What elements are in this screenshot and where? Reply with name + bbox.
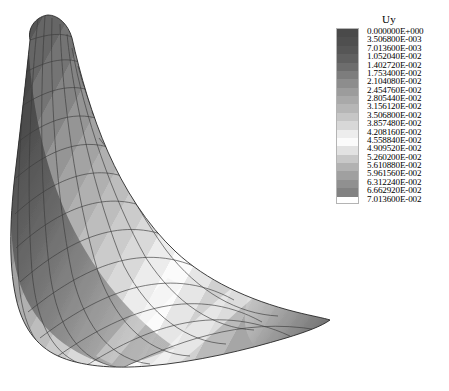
colorbar-band xyxy=(337,63,358,71)
colorbar-band xyxy=(337,138,358,146)
colorbar-band xyxy=(337,155,358,163)
contour-legend: Uy 0.000000E+0003.506800E-0037.013600E-0… xyxy=(336,14,449,199)
legend-colorbar xyxy=(336,28,359,204)
fea-contour-plot: Uy 0.000000E+0003.506800E-0037.013600E-0… xyxy=(0,0,449,391)
colorbar-band xyxy=(337,37,358,45)
legend-tick-label: 7.013600E-002 xyxy=(367,195,449,203)
colorbar-band xyxy=(337,180,358,188)
surface-contour-fill xyxy=(0,0,340,391)
colorbar-band xyxy=(337,146,358,154)
colorbar-band xyxy=(337,163,358,171)
colorbar-band xyxy=(337,79,358,87)
legend-label-list: 0.000000E+0003.506800E-0037.013600E-0031… xyxy=(367,27,449,203)
colorbar-band xyxy=(337,46,358,54)
colorbar-band xyxy=(337,104,358,112)
shell-model-surface xyxy=(0,0,340,391)
colorbar-band xyxy=(337,130,358,138)
colorbar-band xyxy=(337,54,358,62)
colorbar-band xyxy=(337,88,358,96)
colorbar-band xyxy=(337,113,358,121)
colorbar-band xyxy=(337,171,358,179)
model-viewport[interactable] xyxy=(0,0,340,391)
colorbar-band xyxy=(337,188,358,196)
legend-title: Uy xyxy=(382,14,396,25)
colorbar-band xyxy=(337,71,358,79)
colorbar-band xyxy=(337,96,358,104)
colorbar-band xyxy=(337,121,358,129)
colorbar-band xyxy=(337,29,358,37)
